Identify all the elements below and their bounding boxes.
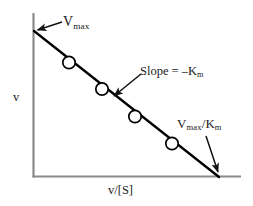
- vmaxkm-first-base: V: [177, 116, 186, 131]
- eadie-hofstee-figure: Vmax Slope = –Km Vmax/Km v/[S] v: [0, 0, 253, 206]
- vmax-base: V: [63, 14, 73, 29]
- vmax-annotation-label: Vmax: [63, 15, 90, 31]
- vmaxkm-second-base: K: [205, 116, 214, 131]
- data-point-marker: [96, 83, 108, 95]
- regression-line: [34, 31, 219, 177]
- vmax-subscript: max: [73, 21, 90, 31]
- axis-lines: [33, 13, 242, 178]
- vmaxkm-first-subscript: max: [186, 122, 201, 132]
- x-axis-label: v/[S]: [108, 184, 133, 197]
- slope-arrow: [114, 74, 141, 96]
- plot-canvas: [0, 0, 253, 206]
- data-point-marker: [129, 110, 141, 122]
- data-point-marker: [166, 137, 178, 149]
- vmax-over-km-arrow: [206, 136, 218, 172]
- y-axis-label: v: [13, 91, 19, 104]
- vmaxkm-second-subscript: m: [215, 122, 222, 132]
- vmax-over-km-annotation-label: Vmax/Km: [177, 117, 222, 132]
- slope-subscript: m: [197, 70, 204, 79]
- annotation-arrows: [38, 22, 219, 172]
- slope-prefix: Slope = –K: [140, 64, 197, 78]
- slope-annotation-label: Slope = –Km: [140, 65, 204, 80]
- vmax-arrow: [38, 22, 63, 30]
- data-point-marker: [63, 56, 75, 68]
